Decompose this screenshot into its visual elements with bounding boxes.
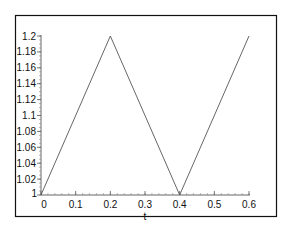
y-tick-label: 1.16 <box>17 62 37 73</box>
chart-frame <box>16 16 277 217</box>
y-tick-label: 1 <box>31 188 37 199</box>
axes <box>41 35 250 195</box>
y-tick-label: 1.08 <box>17 126 37 137</box>
x-tick-label: 0.4 <box>173 199 187 210</box>
y-tick-label: 1.06 <box>17 142 37 153</box>
x-tick-label: 0.3 <box>138 199 152 210</box>
x-tick-label: 0 <box>41 199 47 210</box>
y-tick-label: 1.02 <box>17 174 37 185</box>
x-axis-label: t <box>144 211 147 222</box>
ticks: 11.021.041.061.081.11.121.141.161.181.20… <box>17 31 257 211</box>
x-tick-label: 0.5 <box>207 199 221 210</box>
x-tick-label: 0.2 <box>103 199 117 210</box>
chart: 11.021.041.061.081.11.121.141.161.181.20… <box>0 0 290 228</box>
x-tick-label: 0.6 <box>242 199 256 210</box>
y-tick-label: 1.04 <box>17 158 37 169</box>
y-tick-label: 1.14 <box>17 78 37 89</box>
y-tick-label: 1.12 <box>17 94 37 105</box>
y-tick-label: 1.1 <box>22 110 36 121</box>
y-tick-label: 1.2 <box>22 31 36 42</box>
series-line <box>41 36 249 195</box>
y-tick-label: 1.18 <box>17 46 37 57</box>
x-tick-label: 0.1 <box>69 199 83 210</box>
series-layer <box>41 36 249 195</box>
